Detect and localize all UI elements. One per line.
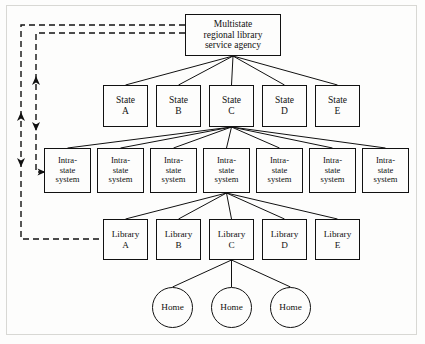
agency-line-2: regional library <box>204 30 263 41</box>
home-1-label: Home <box>161 302 183 312</box>
state-b-label: State <box>169 95 188 106</box>
state-a-letter: A <box>122 106 129 117</box>
node-intrastate-4[interactable]: Intra- state system <box>203 148 250 193</box>
outer-loop-arrow-down <box>17 158 25 167</box>
intrastate-1-line-3: system <box>56 175 80 185</box>
node-home-1[interactable]: Home <box>152 287 193 328</box>
library-e-letter: E <box>335 240 341 250</box>
intrastate-4-line-3: system <box>215 175 239 185</box>
library-a-letter: A <box>122 240 129 250</box>
library-e-label: Library <box>324 229 352 239</box>
intrastate-2-line-3: system <box>109 175 133 185</box>
node-state-b[interactable]: State B <box>156 85 201 127</box>
edges-agency-to-states <box>126 56 338 85</box>
library-c-label: Library <box>218 229 246 239</box>
edges-intrastate-to-libraries <box>126 193 338 219</box>
node-library-c[interactable]: Library C <box>209 219 254 260</box>
node-state-d[interactable]: State D <box>262 85 307 127</box>
library-b-label: Library <box>165 229 193 239</box>
node-state-e[interactable]: State E <box>315 85 360 127</box>
figure-container: Multistate regional library service agen… <box>0 0 425 344</box>
outer-loop-arrow-up <box>17 112 25 121</box>
node-home-2[interactable]: Home <box>211 287 252 328</box>
home-3-label: Home <box>279 302 301 312</box>
state-d-letter: D <box>281 106 288 117</box>
node-home-3[interactable]: Home <box>270 287 311 328</box>
intrastate-5-line-3: system <box>268 175 292 185</box>
node-state-c[interactable]: State C <box>209 85 254 127</box>
agency-line-1: Multistate <box>214 19 253 30</box>
edges-libraryC-to-homes <box>173 260 291 287</box>
edges-stateC-to-intrastate <box>68 127 386 148</box>
library-b-letter: B <box>175 240 181 250</box>
node-library-e[interactable]: Library E <box>315 219 360 260</box>
library-d-label: Library <box>271 229 299 239</box>
state-e-letter: E <box>335 106 341 117</box>
agency-line-3: service agency <box>205 40 261 51</box>
node-intrastate-5[interactable]: Intra- state system <box>256 148 303 193</box>
node-intrastate-2[interactable]: Intra- state system <box>97 148 144 193</box>
intrastate-6-line-3: system <box>321 175 345 185</box>
state-b-letter: B <box>175 106 181 117</box>
inner-loop-arrow-up <box>32 76 40 85</box>
state-a-label: State <box>116 95 135 106</box>
node-intrastate-7[interactable]: Intra- state system <box>362 148 409 193</box>
home-2-label: Home <box>220 302 242 312</box>
intrastate-7-line-3: system <box>374 175 398 185</box>
outer-feedback-loop <box>21 25 185 239</box>
node-intrastate-3[interactable]: Intra- state system <box>150 148 197 193</box>
node-library-b[interactable]: Library B <box>156 219 201 260</box>
state-d-label: State <box>275 95 294 106</box>
node-library-a[interactable]: Library A <box>103 219 148 260</box>
node-intrastate-1[interactable]: Intra- state system <box>44 148 91 193</box>
inner-loop-arrow-down <box>32 122 40 131</box>
node-library-d[interactable]: Library D <box>262 219 307 260</box>
library-a-label: Library <box>112 229 140 239</box>
library-d-letter: D <box>281 240 288 250</box>
state-c-label: State <box>222 95 241 106</box>
library-c-letter: C <box>228 240 234 250</box>
node-agency[interactable]: Multistate regional library service agen… <box>185 14 281 56</box>
state-c-letter: C <box>228 106 234 117</box>
node-intrastate-6[interactable]: Intra- state system <box>309 148 356 193</box>
intrastate-3-line-3: system <box>162 175 186 185</box>
state-e-label: State <box>328 95 347 106</box>
node-state-a[interactable]: State A <box>103 85 148 127</box>
